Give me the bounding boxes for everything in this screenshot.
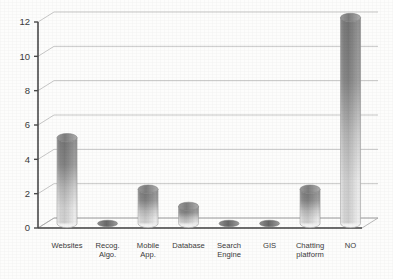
x-label-mobile-app-line2: App. <box>140 250 156 259</box>
bar-chart: 024681012 WebsitesRecog.Algo.MobileApp.D… <box>0 0 393 279</box>
x-label-search-engine-line2: Engine <box>217 250 241 259</box>
y-tick-label-8: 8 <box>25 85 30 96</box>
bar-chatting-platform <box>300 185 320 228</box>
bar-top-cap <box>300 185 320 193</box>
y-tick-label-10: 10 <box>19 51 30 62</box>
x-label-gis-line1: GIS <box>263 241 276 250</box>
x-label-websites-line1: Websites <box>52 241 83 250</box>
x-label-recog-algo-line1: Recog. <box>96 241 120 250</box>
bar-cylinder-shading <box>138 189 158 223</box>
bar-top-cap <box>138 185 158 193</box>
y-tick-labels: 024681012 <box>19 16 30 233</box>
x-label-no-line1: NO <box>345 241 356 250</box>
bar-websites <box>57 133 77 227</box>
bar-mobile-app <box>138 185 158 228</box>
bar-gis <box>260 220 280 227</box>
gridline-4 <box>38 149 378 159</box>
gridline-6 <box>38 115 378 125</box>
y-tick-label-6: 6 <box>25 119 30 130</box>
bar-zero-marker <box>260 220 280 227</box>
gridline-2 <box>38 184 378 194</box>
gridline-10 <box>38 46 378 56</box>
bar-search-engine <box>219 220 239 227</box>
gridline-0 <box>38 218 378 228</box>
bar-no <box>341 13 361 227</box>
bar-top-cap <box>179 202 199 210</box>
gridline-12 <box>38 12 378 22</box>
gridlines <box>38 12 378 228</box>
y-tick-label-0: 0 <box>25 222 30 233</box>
x-label-chatting-platform-line1: Chatting <box>296 241 324 250</box>
x-label-search-engine-line1: Search <box>217 241 241 250</box>
x-label-mobile-app-line1: Mobile <box>137 241 159 250</box>
bar-cylinder-shading <box>57 138 77 224</box>
bar-database <box>179 202 199 228</box>
bar-top-cap <box>341 13 361 21</box>
gridline-8 <box>38 81 378 91</box>
chart-floor <box>38 218 378 228</box>
x-label-database-line1: Database <box>172 241 205 250</box>
bar-cylinder-shading <box>300 189 320 223</box>
y-tick-label-2: 2 <box>25 188 30 199</box>
bar-cylinder-shading <box>341 18 361 224</box>
x-tick-labels: WebsitesRecog.Algo.MobileApp.DatabaseSea… <box>52 241 357 259</box>
bars <box>57 13 361 227</box>
x-label-chatting-platform-line2: platform <box>296 250 323 259</box>
bar-zero-marker <box>219 220 239 227</box>
bar-recog-algo <box>98 220 118 227</box>
chart-canvas: 024681012 WebsitesRecog.Algo.MobileApp.D… <box>0 0 393 279</box>
bar-top-cap <box>57 133 77 141</box>
y-tick-label-12: 12 <box>19 16 30 27</box>
floor-plane <box>38 218 378 228</box>
x-label-recog-algo-line2: Algo. <box>99 250 116 259</box>
bar-zero-marker <box>98 220 118 227</box>
y-tick-label-4: 4 <box>25 154 30 165</box>
